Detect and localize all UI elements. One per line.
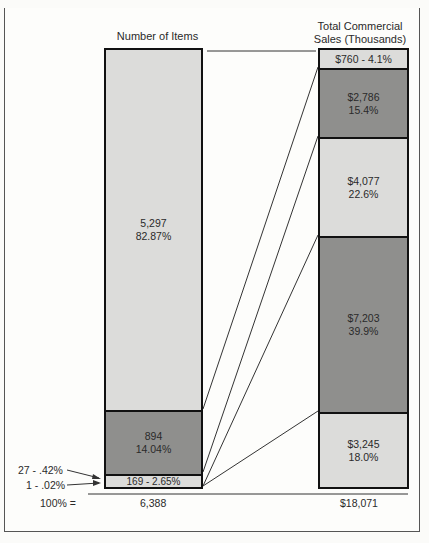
segment-value: 5,297	[136, 217, 172, 230]
callout-27: 27 - .42%	[18, 464, 63, 476]
segment-value: 894	[136, 430, 172, 443]
segment-4077: $4,07722.6%	[320, 137, 407, 236]
left-total: 6,388	[140, 497, 166, 509]
segment-value: $7,203	[347, 312, 379, 325]
segment-percent: 14.04%	[136, 443, 172, 456]
segment-percent: 39.9%	[347, 325, 379, 338]
left-stacked-bar: 5,29782.87% 89414.04% 169 - 2.65%	[104, 48, 203, 489]
segment-percent: 82.87%	[136, 230, 172, 243]
callout-1: 1 - .02%	[26, 479, 65, 491]
segment-760: $760 - 4.1%	[320, 50, 407, 68]
total-row-label: 100% =	[40, 497, 76, 509]
segment-5297: 5,29782.87%	[106, 50, 201, 410]
segment-percent: 18.0%	[347, 451, 379, 464]
right-stacked-bar: $760 - 4.1% $2,78615.4% $4,07722.6% $7,2…	[318, 48, 409, 489]
segment-percent: 22.6%	[347, 188, 379, 201]
segment-value: $3,245	[347, 438, 379, 451]
segment-value: $2,786	[347, 91, 379, 104]
segment-7203: $7,20339.9%	[320, 236, 407, 412]
right-total: $18,071	[340, 497, 378, 509]
segment-169: 169 - 2.65%	[106, 474, 201, 487]
segment-894: 89414.04%	[106, 410, 201, 474]
segment-3245: $3,24518.0%	[320, 412, 407, 487]
segment-2786: $2,78615.4%	[320, 68, 407, 137]
segment-value: $4,077	[347, 175, 379, 188]
segment-percent: 15.4%	[347, 104, 379, 117]
